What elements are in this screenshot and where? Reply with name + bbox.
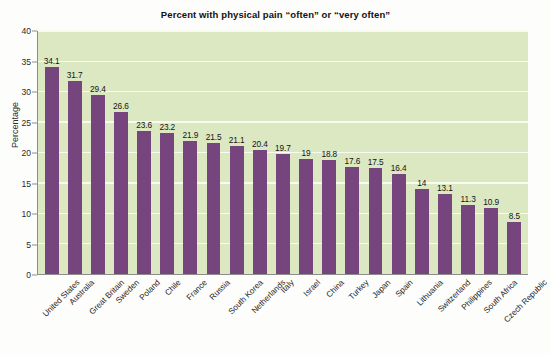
y-tick-label: 15	[21, 179, 31, 189]
bar-slot: 23.2	[156, 31, 179, 274]
bar[interactable]: 23.6	[137, 131, 151, 274]
y-tick-label: 35	[21, 57, 31, 67]
bar-slot: 8.5	[503, 31, 526, 274]
bar-series: 34.131.729.426.623.623.221.921.521.120.4…	[38, 31, 528, 274]
bar[interactable]: 34.1	[45, 67, 59, 274]
bar[interactable]: 21.5	[207, 143, 221, 274]
bar-value-label: 8.5	[509, 211, 520, 221]
bar-value-label: 29.4	[90, 84, 106, 94]
bar-value-label: 14	[417, 178, 426, 188]
x-label-slot: Switzerland	[433, 276, 456, 354]
bar-slot: 17.5	[364, 31, 387, 274]
bar-value-label: 18.8	[321, 149, 337, 159]
bar[interactable]: 11.3	[461, 205, 475, 274]
bar[interactable]: 29.4	[91, 95, 105, 274]
x-label-slot: Australia	[62, 276, 85, 354]
y-tick-label: 30	[21, 87, 31, 97]
bar[interactable]: 21.1	[230, 146, 244, 274]
bar-value-label: 23.2	[159, 122, 175, 132]
y-tick-label: 5	[26, 240, 31, 250]
x-label-slot: France	[178, 276, 201, 354]
bar-slot: 29.4	[86, 31, 109, 274]
bar-value-label: 23.6	[136, 120, 152, 130]
x-label-slot: Sweden	[109, 276, 132, 354]
bar[interactable]: 17.6	[345, 167, 359, 274]
bar-value-label: 11.3	[461, 194, 476, 204]
x-label-slot: Japan	[364, 276, 387, 354]
bar-slot: 21.1	[225, 31, 248, 274]
bar-value-label: 10.9	[483, 197, 499, 207]
x-label-slot: Turkey	[340, 276, 363, 354]
bar-slot: 23.6	[133, 31, 156, 274]
chart-title: Percent with physical pain “often” or “v…	[0, 9, 551, 20]
bar-value-label: 17.5	[368, 157, 384, 167]
plot-area: 34.131.729.426.623.623.221.921.521.120.4…	[37, 31, 528, 275]
bar[interactable]: 19.7	[276, 154, 290, 274]
bar-slot: 10.9	[480, 31, 503, 274]
bar-slot: 18.8	[318, 31, 341, 274]
bar-slot: 26.6	[109, 31, 132, 274]
x-label-slot: United States	[39, 276, 62, 354]
bar-value-label: 34.1	[44, 56, 60, 66]
x-label-slot: Netherlands	[248, 276, 271, 354]
bar[interactable]: 18.8	[322, 160, 336, 274]
bar[interactable]: 20.4	[253, 150, 267, 274]
bar[interactable]: 14	[415, 189, 429, 274]
bar-value-label: 21.1	[229, 135, 245, 145]
bar-slot: 21.9	[179, 31, 202, 274]
bar-value-label: 21.5	[206, 132, 222, 142]
x-label-slot: China	[317, 276, 340, 354]
bar[interactable]: 31.7	[68, 81, 82, 274]
bar[interactable]: 13.1	[438, 194, 452, 274]
x-label-slot: Great Britain	[85, 276, 108, 354]
x-label-slot: South Korea	[225, 276, 248, 354]
bar-slot: 14	[410, 31, 433, 274]
bar[interactable]: 19	[299, 159, 313, 274]
bar-slot: 34.1	[40, 31, 63, 274]
y-tick-label: 0	[26, 270, 31, 280]
bar[interactable]: 10.9	[484, 208, 498, 274]
y-tick-label: 10	[21, 209, 31, 219]
x-label-slot: South Africa	[480, 276, 503, 354]
bar-slot: 21.5	[202, 31, 225, 274]
x-label-slot: Lithuania	[410, 276, 433, 354]
bar-slot: 16.4	[387, 31, 410, 274]
x-label-slot: Spain	[387, 276, 410, 354]
bar[interactable]: 17.5	[369, 168, 383, 274]
y-tick-label: 40	[21, 26, 31, 36]
bar[interactable]: 26.6	[114, 112, 128, 274]
x-label-slot: Philippines	[456, 276, 479, 354]
x-label-slot: Poland	[132, 276, 155, 354]
bar-slot: 17.6	[341, 31, 364, 274]
x-label-slot: Chile	[155, 276, 178, 354]
y-axis-ticks: 0510152025303540	[0, 31, 37, 275]
y-tick-label: 25	[21, 118, 31, 128]
bar-value-label: 21.9	[183, 130, 199, 140]
x-label-slot: Czech Republic	[503, 276, 526, 354]
bar-slot: 19.7	[271, 31, 294, 274]
x-axis-labels: United StatesAustraliaGreat BritainSwede…	[37, 276, 528, 354]
bar-value-label: 16.4	[391, 163, 407, 173]
bar-value-label: 26.6	[113, 101, 129, 111]
bar-slot: 13.1	[433, 31, 456, 274]
y-tick-label: 20	[21, 148, 31, 158]
x-label-slot: Russia	[201, 276, 224, 354]
bar-slot: 31.7	[63, 31, 86, 274]
bar-slot: 20.4	[248, 31, 271, 274]
chart-figure: Percent with physical pain “often” or “v…	[0, 0, 551, 355]
bar[interactable]: 21.9	[183, 141, 197, 274]
bar[interactable]: 8.5	[507, 222, 521, 274]
bar[interactable]: 16.4	[392, 174, 406, 274]
bar-value-label: 19.7	[275, 143, 291, 153]
bar-value-label: 19	[302, 148, 311, 158]
x-label-slot: Italy	[271, 276, 294, 354]
x-tick-label: Czech Republic	[503, 278, 549, 324]
x-label-slot: Israel	[294, 276, 317, 354]
bar-slot: 19	[295, 31, 318, 274]
bar-value-label: 13.1	[437, 183, 453, 193]
bar-value-label: 31.7	[67, 70, 83, 80]
bar-value-label: 20.4	[252, 139, 268, 149]
bar-slot: 11.3	[457, 31, 480, 274]
bar-value-label: 17.6	[345, 156, 361, 166]
bar[interactable]: 23.2	[160, 133, 174, 274]
